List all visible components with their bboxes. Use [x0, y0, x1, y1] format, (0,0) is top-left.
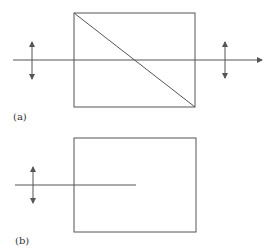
panel-label-b: (b) — [15, 236, 29, 246]
optics-diagram — [0, 0, 273, 250]
panel-label-a: (a) — [13, 112, 27, 122]
panel-b — [15, 138, 196, 232]
panel-a — [13, 13, 262, 107]
